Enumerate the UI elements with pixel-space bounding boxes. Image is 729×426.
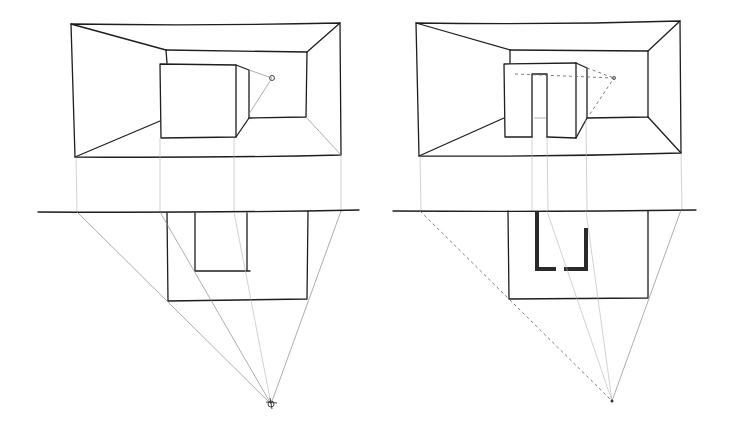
left-drawing: [38, 23, 359, 409]
left-ceiling-diagonal-left: [71, 24, 166, 50]
right-sight-lines: [420, 210, 681, 401]
right-floor-diagonal-right: [648, 117, 681, 153]
right-plan-outer: [508, 211, 648, 299]
right-plan-u-notch: [537, 214, 586, 269]
right-vp-line-top: [515, 74, 614, 78]
left-back-wall-left-edge: [166, 50, 167, 63]
left-cube-side-face: [236, 65, 249, 137]
left-plan-outer: [167, 211, 308, 301]
left-cube: [160, 64, 249, 138]
right-door-opening: [532, 74, 547, 137]
left-ceiling-diagonal-right: [307, 23, 340, 52]
left-picture-plane-line: [38, 210, 359, 212]
left-plan-inner: [195, 213, 250, 271]
right-ceiling-diagonal-left: [416, 23, 510, 50]
right-station-point-icon: [611, 400, 614, 403]
left-projection-lines: [76, 138, 341, 212]
left-vanishing-point: [249, 70, 275, 114]
right-picture-plane-line: [393, 210, 696, 211]
right-block-front-right: [547, 63, 576, 138]
right-vp-line-bottom: [590, 78, 614, 114]
right-floor-diagonal-left: [419, 118, 504, 156]
left-cube-front-face: [160, 64, 236, 138]
right-back-wall: [510, 50, 648, 118]
right-dashed-sight-line: [420, 211, 612, 401]
left-floor-diagonal-right: [306, 117, 341, 155]
right-ceiling-diagonal-right: [648, 21, 680, 51]
left-plan-view: [167, 211, 308, 301]
right-projection-lines: [420, 120, 682, 211]
left-vp-line-top: [249, 70, 272, 78]
left-sight-lines: [77, 211, 341, 404]
perspective-sketch: [0, 0, 729, 426]
right-drawing: [393, 21, 696, 403]
left-vp-line-bottom: [249, 78, 272, 114]
right-room-perspective: [416, 21, 681, 156]
left-floor-diagonal-left: [75, 121, 160, 157]
right-vanishing-point: [515, 68, 616, 114]
right-block-side-face: [576, 63, 587, 138]
right-plan-view: [508, 211, 648, 299]
right-outer-frame: [416, 21, 681, 156]
